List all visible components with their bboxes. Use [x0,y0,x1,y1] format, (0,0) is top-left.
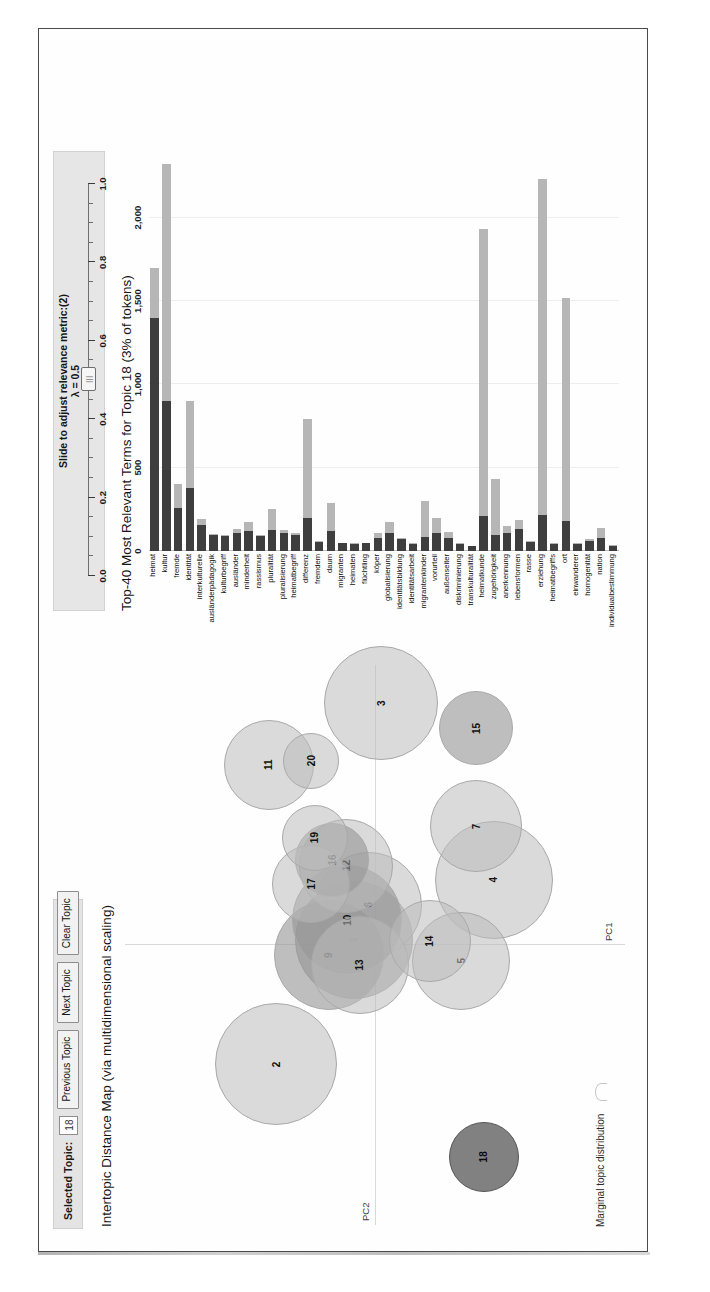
slider-tick [88,301,93,302]
topic-frequency-bar [150,318,158,551]
topic-bubble-2[interactable]: 2 [215,1003,337,1125]
term-bar-row[interactable]: minderheit [244,151,252,551]
term-bar-row[interactable]: identitätsarbeit [409,151,417,551]
slider-tick [88,477,93,478]
clear-topic-button[interactable]: Clear Topic [57,891,79,955]
term-bar-row[interactable]: fremde [174,151,182,551]
topic-bubble-14[interactable]: 14 [389,900,471,982]
marginal-size-legend-icon [595,1083,607,1101]
term-label: fremdem [314,551,322,584]
topic-frequency-bar [197,525,205,551]
term-bar-row[interactable]: außenseiter [444,151,452,551]
term-bar-row[interactable]: migrantenkinder [421,151,429,551]
term-bar-row[interactable]: einwanderer [573,151,581,551]
term-bar-row[interactable]: ausländerpädagogik [209,151,217,551]
slider-tick [88,457,93,458]
term-bar-row[interactable]: heimatkunde [479,151,487,551]
term-label: ort [561,551,569,563]
topic-frequency-bar [174,509,182,552]
term-bar-row[interactable]: heimaten [350,151,358,551]
term-bar-row[interactable]: individualbestimmung [609,151,617,551]
term-label: globalisierung [384,551,392,601]
term-bar-row[interactable]: rasse [526,151,534,551]
slider-tick [88,203,93,204]
term-bar-row[interactable]: homogenität [585,151,593,551]
selected-topic-label: Selected Topic: [62,1142,74,1220]
next-topic-button[interactable]: Next Topic [57,962,79,1023]
topic-frequency-bar [233,534,241,552]
topic-bubble-3[interactable]: 3 [324,646,438,760]
term-bar-row[interactable]: vorurteil [432,151,440,551]
term-label: köper [373,551,381,573]
overall-frequency-bar [562,298,570,551]
pc2-axis-label: PC2 [360,1203,371,1221]
term-bar-row[interactable]: interkulturelle [197,151,205,551]
barchart-x-tick-label: 1,000 [132,372,143,396]
term-bar-row[interactable]: ausländer [233,151,241,551]
term-label: zugehörigkeit [490,551,498,599]
term-bar-row[interactable]: daum [327,151,335,551]
slider-tick [88,575,95,576]
barchart-x-tick-label: 500 [132,460,143,476]
term-bar-row[interactable]: kultur [162,151,170,551]
previous-topic-button[interactable]: Previous Topic [57,1030,79,1109]
slider-tick [88,359,93,360]
term-bar-row[interactable]: transkulturalität [468,151,476,551]
topic-bubble-15[interactable]: 15 [439,691,513,765]
term-label: migrantenkinder [420,551,428,608]
topic-frequency-bar [350,544,358,551]
term-bar-row[interactable]: fremdem [315,151,323,551]
intertopic-distance-map[interactable]: PC1 PC2 123456791011121314161718191520 [125,665,625,1225]
term-bar-row[interactable]: diskriminierung [456,151,464,551]
relevance-slider-panel: Slide to adjust relevance metric:(2) λ =… [53,151,105,611]
slider-tick-label: 0.2 [97,491,108,504]
term-bar-row[interactable]: differenz [303,151,311,551]
term-bar-row[interactable]: anerkennung [503,151,511,551]
barchart-gridline [149,467,619,468]
term-bar-row[interactable]: identität [186,151,194,551]
term-bar-row[interactable]: heimatbegriff [291,151,299,551]
term-bar-row[interactable]: pluralität [268,151,276,551]
topic-bubble-18[interactable]: 18 [449,1122,519,1192]
term-bar-row[interactable]: köper [374,151,382,551]
term-label: anerkennung [502,551,510,598]
term-bar-row[interactable]: erziehung [538,151,546,551]
topic-bubble-7[interactable]: 7 [430,780,522,872]
overall-frequency-bar [538,179,546,551]
term-bar-row[interactable]: identitätsbildung [397,151,405,551]
term-label: rassismus [255,551,263,588]
topic-frequency-bar [456,544,464,551]
term-bar-row[interactable]: lebensformen [515,151,523,551]
topic-bubble-19[interactable]: 19 [282,805,348,871]
top-terms-barchart[interactable]: 05001,0001,5002,000 heimatkulturfremdeid… [149,151,619,551]
term-label: ausländerpädagogik [208,551,216,622]
slider-tick [88,438,93,439]
term-label: identität [185,551,193,581]
barchart-x-tick-label: 0 [132,548,143,553]
term-bar-row[interactable]: heimat [150,151,158,551]
topic-frequency-bar [221,536,229,551]
topic-frequency-bar [186,488,194,551]
selected-topic-input[interactable]: 18 [59,1116,78,1135]
topic-frequency-bar [573,544,581,551]
relevance-slider-handle[interactable]: ||| [81,367,96,391]
topic-bubble-20[interactable]: 20 [283,733,339,789]
term-bar-row[interactable]: ort [562,151,570,551]
term-bar-row[interactable]: flüchtling [362,151,370,551]
term-bar-row[interactable]: globalisierung [385,151,393,551]
term-bar-row[interactable]: migranten [338,151,346,551]
term-bar-row[interactable]: nation [597,151,605,551]
term-label: rasse [525,551,533,573]
slider-tick [88,183,95,184]
slider-tick-label: 0.6 [97,334,108,347]
term-bar-row[interactable]: pluralisierung [280,151,288,551]
term-bar-row[interactable]: rassismus [256,151,264,551]
relevance-slider-track[interactable]: 0.00.20.40.60.81.0 ||| [88,184,89,576]
term-bar-row[interactable]: heimatbegriffs [550,151,558,551]
topic-frequency-bar [268,530,276,551]
term-label: vorurteil [431,551,439,581]
term-label: identitätsarbeit [408,551,416,603]
term-bar-row[interactable]: zugehörigkeit [491,151,499,551]
term-bar-row[interactable]: kulturbegriff [221,151,229,551]
barchart-gridline [149,217,619,218]
